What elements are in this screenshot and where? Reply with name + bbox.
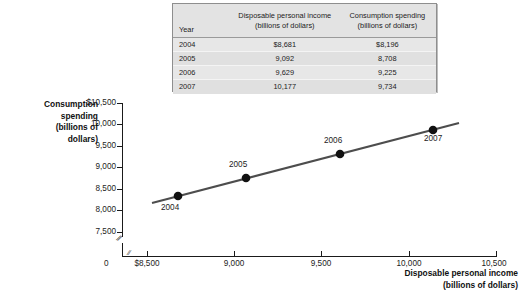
data-point-label-2006: 2006 bbox=[324, 136, 342, 145]
consumption-function-line bbox=[152, 123, 459, 203]
plot-area bbox=[0, 0, 524, 298]
data-point-2006 bbox=[336, 150, 345, 159]
data-point-2004 bbox=[174, 192, 183, 201]
x-axis-title-line2: (billions of dollars) bbox=[443, 280, 518, 290]
data-point-label-2004: 2004 bbox=[161, 203, 179, 212]
data-point-2007 bbox=[429, 126, 438, 135]
x-axis-title: Disposable personal income (billions of … bbox=[330, 268, 518, 291]
data-point-label-2007: 2007 bbox=[424, 134, 442, 143]
chart-figure: Year Disposable personal income (billion… bbox=[0, 0, 524, 298]
data-point-label-2005: 2005 bbox=[229, 160, 247, 169]
data-point-2005 bbox=[242, 174, 251, 183]
x-axis-title-line1: Disposable personal income bbox=[404, 268, 518, 278]
